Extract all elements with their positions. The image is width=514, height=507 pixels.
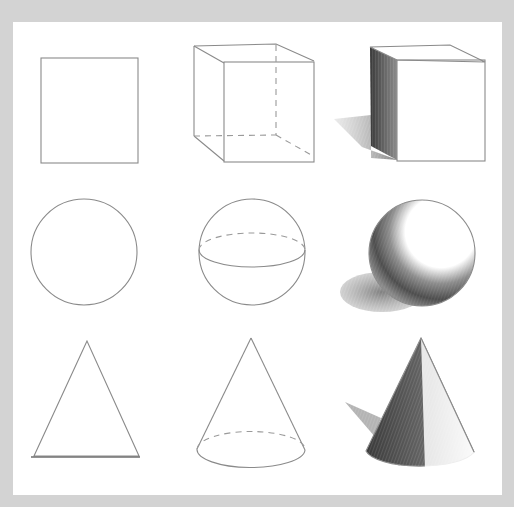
- shaded-cone: [345, 338, 474, 470]
- shaded-cube: [334, 45, 485, 161]
- triangle-outline: [31, 341, 140, 457]
- circle-outline: [31, 199, 137, 305]
- shaded-sphere: [340, 200, 475, 312]
- sphere-with-equator: [199, 199, 305, 305]
- wireframe-cube: [194, 44, 314, 162]
- square-outline: [41, 58, 138, 163]
- geometric-forms-drawing: [0, 0, 514, 507]
- cone-with-base: [197, 338, 305, 467]
